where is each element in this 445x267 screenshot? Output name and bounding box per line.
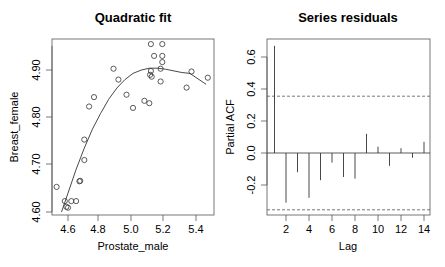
- chart-title-right: Series residuals: [298, 10, 398, 25]
- x-tick-label: 5.4: [188, 223, 203, 235]
- plot-frame-left: [52, 39, 214, 215]
- y-axis-label-right: Partial ACF: [224, 99, 236, 155]
- data-point: [130, 105, 135, 110]
- data-point: [65, 205, 70, 210]
- y-tick-label: 0.4: [245, 81, 257, 96]
- x-axis-label-left: Prostate_male: [98, 240, 169, 252]
- x-tick-label: 4.8: [90, 223, 105, 235]
- x-tick-label: 5.0: [123, 223, 138, 235]
- quadratic-fit-line: [62, 68, 207, 212]
- data-point: [160, 53, 165, 58]
- x-tick-label: 6: [329, 223, 335, 235]
- data-point: [152, 53, 157, 58]
- y-axis-left: [46, 46, 52, 212]
- y-tick-label: 0.2: [245, 113, 257, 128]
- x-tick-label: 5.2: [155, 223, 170, 235]
- x-tick-label: 10: [372, 223, 384, 235]
- data-point: [148, 42, 153, 47]
- data-point: [82, 157, 87, 162]
- x-axis-left: [68, 215, 196, 221]
- x-axis-label-right: Lag: [339, 240, 357, 252]
- data-point: [184, 85, 189, 90]
- scatter-panel: Quadratic fit 4.90 4.80 4.70 4.60 Breast…: [8, 10, 214, 252]
- chart-title-left: Quadratic fit: [95, 10, 172, 25]
- y-axis-label-left: Breast_female: [8, 92, 20, 163]
- data-point: [158, 79, 163, 84]
- data-point: [91, 95, 96, 100]
- data-point: [82, 137, 87, 142]
- y-tick-label: 4.70: [30, 153, 42, 174]
- y-tick-label: 0.0: [245, 145, 257, 160]
- x-tick-label: 8: [352, 223, 358, 235]
- plot-frame-right: [267, 39, 430, 215]
- y-tick-label: 0.6: [245, 49, 257, 64]
- data-point: [147, 101, 152, 106]
- figure-canvas: Quadratic fit 4.90 4.80 4.70 4.60 Breast…: [0, 0, 445, 267]
- x-tick-label: 14: [418, 223, 430, 235]
- y-tick-label: 4.90: [30, 59, 42, 80]
- data-point: [111, 66, 116, 71]
- data-point: [160, 60, 165, 65]
- data-point: [124, 92, 129, 97]
- data-point: [87, 104, 92, 109]
- y-tick-label: 4.80: [30, 106, 42, 127]
- x-tick-label: 4.6: [60, 223, 75, 235]
- x-tick-label: 2: [283, 223, 289, 235]
- data-point: [205, 75, 210, 80]
- data-point: [54, 184, 59, 189]
- y-tick-label: -0.2: [245, 176, 257, 195]
- y-axis-right: [261, 57, 267, 185]
- x-axis-right: [286, 215, 424, 221]
- scatter-points: [54, 42, 210, 211]
- data-point: [142, 98, 147, 103]
- x-tick-label: 12: [395, 223, 407, 235]
- data-point: [160, 42, 165, 47]
- x-tick-label: 4: [306, 223, 312, 235]
- pacf-bars: [275, 46, 425, 203]
- y-tick-label: 4.60: [30, 201, 42, 222]
- pacf-panel: Series residuals 0.6 0.4 0.2 0.0 -0.2 Pa…: [224, 10, 430, 252]
- data-point: [116, 77, 121, 82]
